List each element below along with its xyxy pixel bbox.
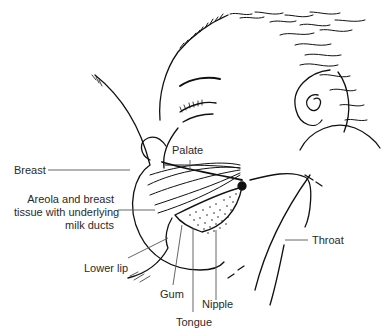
eye-lower <box>183 114 213 122</box>
ear-inner <box>307 95 321 111</box>
label-breast: Breast <box>14 164 46 177</box>
hair-strokes <box>180 12 367 121</box>
label-areola-line3: milk ducts <box>14 219 114 232</box>
label-lower-lip: Lower lip <box>84 262 128 275</box>
label-areola: Areola and breast tissue with underlying… <box>14 193 114 232</box>
illustration <box>0 0 384 330</box>
eyebrow <box>180 78 220 86</box>
throat-dashed <box>305 175 322 186</box>
palate <box>162 162 242 180</box>
label-gum: Gum <box>160 288 184 301</box>
ear-outer <box>295 70 330 125</box>
jaw-dash <box>228 266 244 278</box>
throat-line <box>255 175 310 290</box>
shoulder-line <box>270 245 284 305</box>
lower-lip <box>128 218 172 278</box>
jaw-line <box>250 174 311 227</box>
tongue-outline <box>175 187 242 232</box>
label-areola-line2: tissue with underlying <box>14 206 114 219</box>
neck-curve <box>300 125 380 150</box>
label-tongue: Tongue <box>176 316 212 329</box>
ear-rim <box>338 72 349 132</box>
label-nipple: Nipple <box>202 298 233 311</box>
label-throat: Throat <box>312 234 344 247</box>
breastfeeding-anatomy-diagram: Breast Palate Areola and breast tissue w… <box>0 0 384 330</box>
label-palate: Palate <box>172 144 203 157</box>
label-areola-line1: Areola and breast <box>14 193 114 206</box>
